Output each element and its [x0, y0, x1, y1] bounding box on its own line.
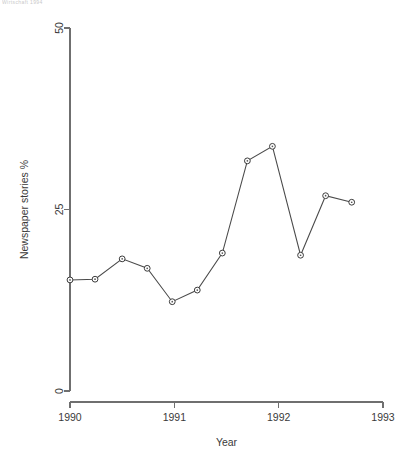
data-point-marker-core: [300, 254, 302, 256]
x-tick-label: 1990: [58, 411, 82, 423]
data-point-marker-core: [196, 289, 198, 291]
data-point-marker-core: [171, 301, 173, 303]
data-point-markers: [67, 143, 355, 304]
data-point-marker-core: [247, 160, 249, 162]
x-tick-label: 1991: [163, 411, 187, 423]
line-chart-svg: 02550 1990199119921993 Newspaper stories…: [0, 0, 402, 463]
y-axis-title: Newspaper stories %: [18, 160, 30, 259]
data-point-marker-core: [325, 195, 327, 197]
axes-group: [64, 28, 383, 408]
y-tick-label: 50: [53, 22, 65, 34]
data-point-marker-core: [94, 278, 96, 280]
data-point-marker-core: [121, 258, 123, 260]
y-tick-label-group: 02550: [53, 22, 65, 394]
x-axis-title: Year: [216, 436, 238, 448]
x-tick-label-group: 1990199119921993: [58, 411, 395, 423]
x-tick-label: 1993: [371, 411, 395, 423]
y-tick-label: 0: [53, 388, 65, 394]
y-tick-label: 25: [53, 204, 65, 216]
data-point-marker-core: [69, 279, 71, 281]
data-line-newspaper-stories: [70, 146, 352, 301]
chart-figure: Wirtschaft 1994 02550 1990199119921993 N…: [0, 0, 402, 463]
data-point-marker-core: [351, 201, 353, 203]
data-point-marker-core: [146, 267, 148, 269]
x-axis-line: [70, 402, 383, 408]
data-point-marker-core: [221, 252, 223, 254]
x-tick-label: 1992: [267, 411, 291, 423]
series-group: [67, 143, 355, 304]
data-point-marker-core: [272, 145, 274, 147]
